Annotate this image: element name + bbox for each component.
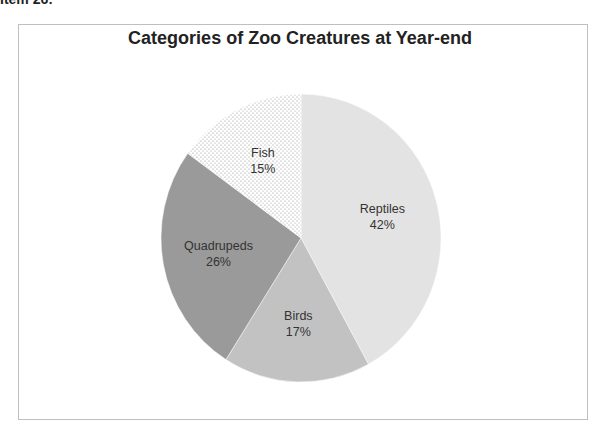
slice-category: Quadrupeds [184,238,253,254]
slice-category: Birds [284,308,312,324]
slice-percentage: 17% [284,324,312,340]
slice-percentage: 26% [184,254,253,270]
slice-label-fish: Fish15% [250,145,275,177]
slice-category: Reptiles [360,201,405,217]
slice-label-quadrupeds: Quadrupeds26% [184,238,253,270]
slice-label-birds: Birds17% [284,308,312,340]
slice-percentage: 42% [360,217,405,233]
slice-percentage: 15% [250,161,275,177]
slice-category: Fish [250,145,275,161]
slice-label-reptiles: Reptiles42% [360,201,405,233]
pie-chart [0,0,600,435]
